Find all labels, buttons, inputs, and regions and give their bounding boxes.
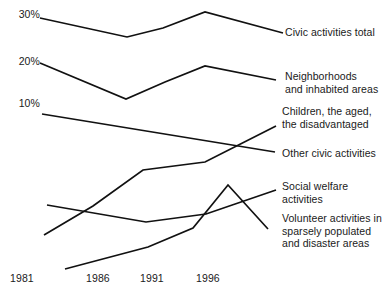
y-axis-tick-30: 30% bbox=[4, 8, 40, 20]
series-line-neighborhoods bbox=[40, 63, 276, 99]
x-axis-tick-1996: 1996 bbox=[196, 272, 220, 284]
line-chart: 30% 20% 10% 1981 1986 1991 1996 Civic ac… bbox=[0, 0, 388, 296]
x-axis-tick-1981: 1981 bbox=[10, 272, 34, 284]
series-line-other-civic-activities bbox=[42, 114, 275, 152]
series-line-civic-activities-total bbox=[40, 12, 283, 37]
series-label-social-welfare-activities: Social welfare activities bbox=[282, 180, 388, 205]
y-axis-tick-10: 10% bbox=[4, 97, 40, 109]
series-line-children-aged-disadvantaged bbox=[44, 126, 276, 235]
series-line-volunteer-activities bbox=[65, 185, 268, 269]
y-axis-tick-20: 20% bbox=[4, 55, 40, 67]
series-label-neighborhoods: Neighborhoods and inhabited areas bbox=[285, 70, 378, 95]
series-line-social-welfare-activities bbox=[47, 190, 276, 222]
series-label-civic-activities-total: Civic activities total bbox=[285, 26, 375, 39]
x-axis-tick-1986: 1986 bbox=[86, 272, 110, 284]
series-label-volunteer-activities: Volunteer activities in sparsely populat… bbox=[282, 212, 382, 250]
series-label-other-civic-activities: Other civic activities bbox=[282, 147, 376, 160]
x-axis-tick-1991: 1991 bbox=[140, 272, 164, 284]
series-label-children-aged-disadvantaged: Children, the aged, the disadvantaged bbox=[282, 105, 372, 130]
